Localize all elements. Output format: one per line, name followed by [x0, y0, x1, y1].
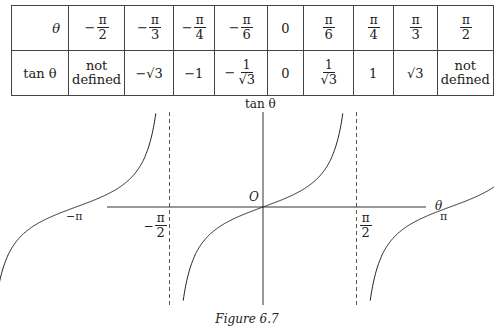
y-axis-label: tan θ — [245, 97, 276, 111]
tan-graph — [0, 0, 494, 330]
figure-caption: Figure 6.7 — [0, 312, 494, 326]
origin-label: O — [249, 190, 259, 204]
x-tick-label: π — [440, 210, 447, 223]
x-tick-label: π2 — [359, 212, 372, 239]
x-tick-label: −π — [66, 210, 82, 223]
x-tick-label: −π2 — [144, 212, 167, 239]
